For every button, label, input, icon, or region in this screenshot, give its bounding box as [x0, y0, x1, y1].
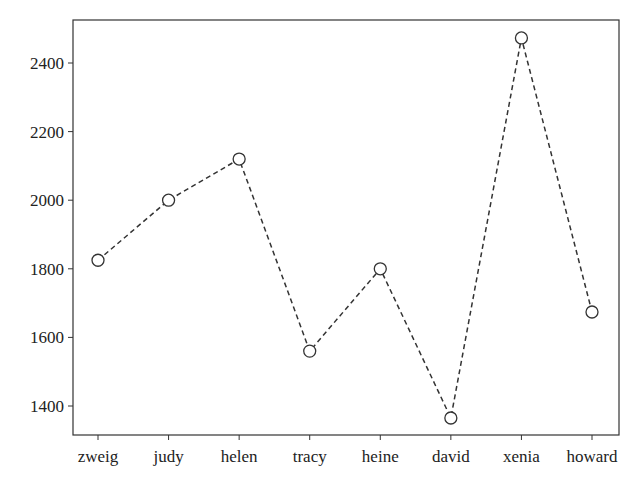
- y-tick-label: 2400: [30, 54, 64, 73]
- data-point-marker: [233, 153, 245, 165]
- data-point-marker: [515, 32, 527, 44]
- data-point-marker: [586, 306, 598, 318]
- x-axis: zweigjudyhelentracyheinedavidxeniahoward: [78, 435, 618, 466]
- x-tick-label: judy: [152, 447, 184, 466]
- data-point-marker: [304, 345, 316, 357]
- y-tick-label: 2000: [30, 191, 64, 210]
- x-tick-label: david: [432, 447, 470, 466]
- data-point-marker: [445, 412, 457, 424]
- y-axis: 140016001800200022002400: [30, 54, 73, 416]
- data-point-marker: [92, 254, 104, 266]
- data-point-marker: [374, 263, 386, 275]
- plot-area: [92, 32, 598, 424]
- y-tick-label: 1600: [30, 328, 64, 347]
- x-tick-label: tracy: [293, 447, 327, 466]
- series-line: [98, 38, 592, 418]
- x-tick-label: howard: [567, 447, 618, 466]
- y-tick-label: 2200: [30, 123, 64, 142]
- x-tick-label: xenia: [503, 447, 540, 466]
- y-tick-label: 1800: [30, 260, 64, 279]
- x-tick-label: zweig: [78, 447, 119, 466]
- line-chart: 140016001800200022002400 zweigjudyhelent…: [0, 0, 641, 496]
- x-tick-label: heine: [362, 447, 399, 466]
- data-point-marker: [163, 194, 175, 206]
- x-tick-label: helen: [221, 447, 258, 466]
- axes-frame: [73, 20, 619, 435]
- y-tick-label: 1400: [30, 397, 64, 416]
